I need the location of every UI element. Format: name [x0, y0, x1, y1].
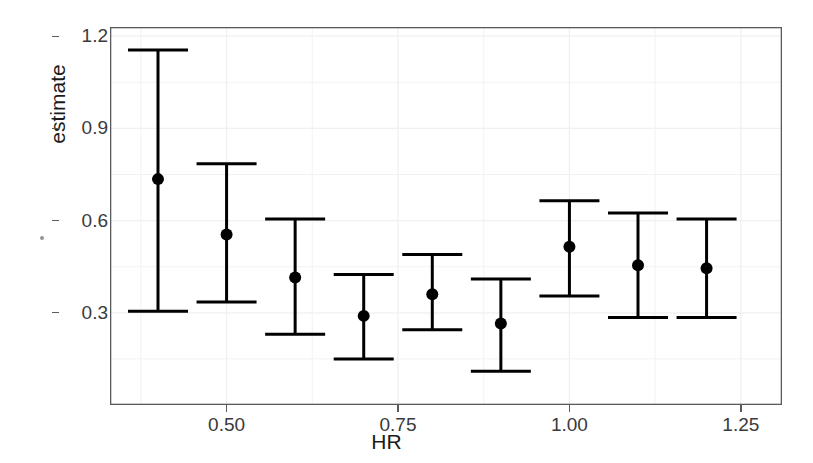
plot-area-svg	[110, 27, 782, 405]
data-point-marker	[701, 262, 713, 274]
data-point-marker	[632, 259, 644, 271]
errorbar-point	[471, 279, 531, 371]
x-tick-mark	[397, 405, 398, 412]
errorbar-point	[265, 219, 325, 334]
data-point-marker	[221, 228, 233, 240]
data-point-marker	[563, 241, 575, 253]
y-tick-label: 0.6	[58, 210, 108, 232]
data-point-marker	[289, 271, 301, 283]
y-tick-label: 0.3	[58, 302, 108, 324]
y-tick-label: 1.2	[58, 25, 108, 47]
data-points-group	[128, 50, 737, 371]
chart-figure: estimate 0.30.60.91.2 0.500.751.001.25 H…	[0, 0, 813, 463]
x-tick-mark	[569, 405, 570, 412]
scan-artifact-speck	[40, 236, 44, 240]
data-point-marker	[426, 288, 438, 300]
gridlines	[110, 27, 782, 405]
data-point-marker	[495, 318, 507, 330]
errorbar-point	[128, 50, 188, 311]
y-tick-mark	[52, 128, 59, 129]
y-tick-label: 0.9	[58, 117, 108, 139]
errorbar-point	[539, 201, 599, 296]
plot-panel	[110, 27, 782, 405]
errorbar-point	[334, 274, 394, 359]
errorbar-point	[402, 254, 462, 329]
x-axis-title-text: HR	[371, 430, 401, 454]
panel-border	[111, 28, 782, 405]
y-tick-mark	[52, 312, 59, 313]
x-tick-mark	[226, 405, 227, 412]
data-point-marker	[152, 173, 164, 185]
errorbar-point	[608, 213, 668, 317]
errorbar-point	[677, 219, 737, 317]
errorbar-point	[197, 164, 257, 302]
x-tick-mark	[740, 405, 741, 412]
x-axis-title: HR	[0, 430, 813, 454]
y-axis-tick-labels: 0.30.60.91.2	[50, 0, 108, 463]
data-point-marker	[358, 310, 370, 322]
y-tick-mark	[52, 36, 59, 37]
y-tick-mark	[52, 220, 59, 221]
